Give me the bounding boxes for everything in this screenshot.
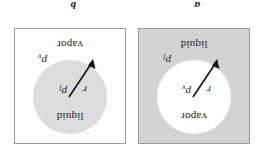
panel-b-outer-pressure-symbol: p [42,55,48,67]
panel-a-inner-phase-label: vapor [181,111,207,123]
panel-b-outer-pressure-label: pv [38,52,47,67]
panel-a-outer-pressure-label: pl [163,52,171,67]
panel-b: liquid vapor pl pv r [14,28,126,144]
panel-b-radius-label: r [83,84,87,96]
panel-b-caption: b [71,0,77,12]
panel-b-outer-pressure-subscript: v [38,52,41,61]
panel-a-inner-pressure-symbol: p [186,86,192,98]
panel-a-outer-pressure-subscript: l [163,52,165,61]
panel-b-outer-phase-label: vapor [57,39,83,51]
figure-container: vapor liquid pv pl r liquid vapor pl pv … [0,0,260,152]
panel-b-inner-pressure-subscript: l [59,83,61,92]
panel-a-inner-pressure-subscript: v [182,83,185,92]
panel-a: vapor liquid pv pl r [138,28,250,144]
panel-a-outer-phase-label: liquid [181,39,208,51]
panel-b-inner-pressure-symbol: p [62,86,68,98]
panel-b-inner-phase-label: liquid [57,111,84,123]
panel-a-radius-label: r [207,84,211,96]
panel-b-inner-pressure-label: pl [59,83,67,98]
panel-a-inner-pressure-label: pv [182,83,191,98]
panel-a-outer-pressure-symbol: p [166,55,172,67]
panel-a-caption: a [195,0,201,12]
